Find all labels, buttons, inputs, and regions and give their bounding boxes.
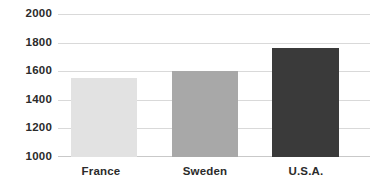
y-axis-label-1000: 1000 xyxy=(4,151,52,163)
y-axis-label-1200: 1200 xyxy=(4,123,52,135)
bar-usa[interactable] xyxy=(272,48,339,157)
y-axis-label-1800: 1800 xyxy=(4,37,52,49)
y-axis-label-1400: 1400 xyxy=(4,94,52,106)
y-axis-label-1600: 1600 xyxy=(4,65,52,77)
plot-area xyxy=(58,14,370,157)
bar-sweden[interactable] xyxy=(172,71,238,157)
gridline-1800 xyxy=(58,43,370,44)
bar-chart: 2000 1800 1600 1400 1200 1000 France Swe… xyxy=(0,0,385,188)
x-axis-label-sweden: Sweden xyxy=(155,166,255,178)
bar-france[interactable] xyxy=(71,78,137,157)
x-axis-label-france: France xyxy=(51,166,151,178)
gridline-2000 xyxy=(58,14,370,15)
x-axis-label-usa: U.S.A. xyxy=(256,166,356,178)
y-axis-label-2000: 2000 xyxy=(4,8,52,20)
